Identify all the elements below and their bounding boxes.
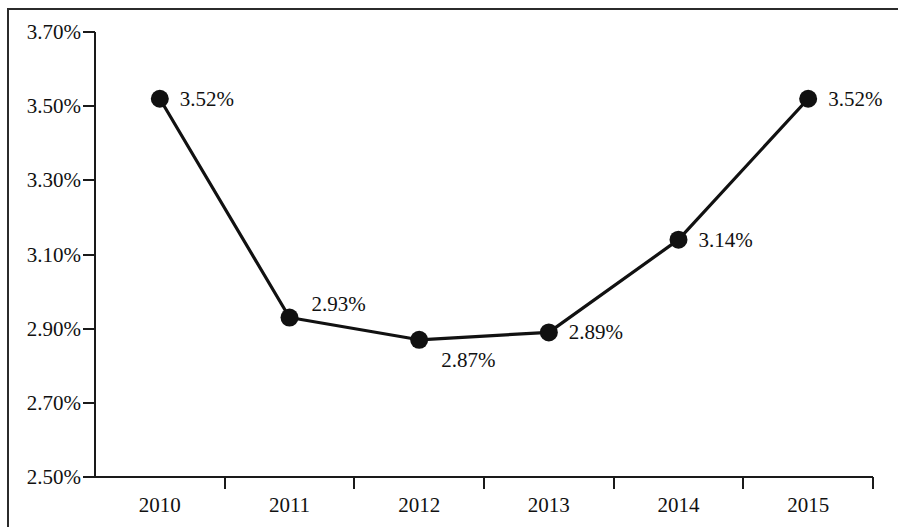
data-point-marker [151, 90, 169, 108]
line-chart-figure: 3.70%3.50%3.30%3.10%2.90%2.70%2.50% 2010… [0, 0, 898, 527]
x-tick-marks [225, 477, 744, 489]
plot-area [0, 0, 898, 527]
data-point-value-label: 2.93% [312, 293, 366, 314]
x-tick-label: 2015 [787, 495, 829, 516]
data-point-markers [151, 90, 817, 349]
data-point-marker [670, 231, 688, 249]
y-tick-label: 3.30% [27, 170, 81, 191]
data-point-marker [799, 90, 817, 108]
data-point-value-label: 3.14% [699, 229, 753, 250]
y-tick-label: 3.50% [27, 96, 81, 117]
data-point-marker [540, 323, 558, 341]
y-tick-label: 2.70% [27, 392, 81, 413]
data-point-value-label: 2.89% [569, 322, 623, 343]
x-tick-label: 2014 [658, 495, 700, 516]
data-point-marker [410, 331, 428, 349]
data-point-value-label: 3.52% [180, 88, 234, 109]
y-tick-label: 2.50% [27, 467, 81, 488]
x-tick-label: 2013 [528, 495, 570, 516]
y-tick-label: 3.70% [27, 22, 81, 43]
y-tick-label: 3.10% [27, 244, 81, 265]
x-tick-label: 2011 [269, 495, 310, 516]
y-tick-marks [83, 32, 95, 477]
data-series-line [160, 99, 808, 340]
data-point-value-label: 2.87% [441, 349, 495, 370]
x-tick-label: 2012 [398, 495, 440, 516]
data-point-value-label: 3.52% [828, 88, 882, 109]
x-tick-label: 2010 [139, 495, 181, 516]
data-point-marker [281, 309, 299, 327]
y-tick-label: 2.90% [27, 318, 81, 339]
